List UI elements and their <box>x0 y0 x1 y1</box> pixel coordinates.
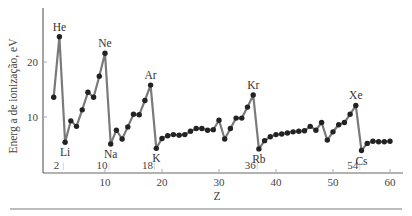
data-point <box>308 124 313 129</box>
element-label-kr: Kr <box>247 79 259 91</box>
data-point <box>239 115 244 120</box>
data-point <box>325 137 330 142</box>
data-point <box>330 129 335 134</box>
data-series <box>51 34 393 153</box>
data-point <box>159 136 164 141</box>
data-point <box>336 122 341 127</box>
data-point <box>285 130 290 135</box>
data-point <box>376 139 381 144</box>
x-tick-label: 10 <box>100 176 112 188</box>
data-point <box>194 126 199 131</box>
y-tick-label: 10 <box>27 111 39 123</box>
x-tick-label: 40 <box>271 176 283 188</box>
y-tick-label: 20 <box>27 56 39 68</box>
data-point <box>211 127 216 132</box>
data-point <box>142 98 147 103</box>
data-point <box>302 128 307 133</box>
data-point <box>296 129 301 134</box>
data-point <box>382 139 387 144</box>
data-point <box>273 132 278 137</box>
bottom-divider <box>10 208 402 210</box>
x-tick-label: 30 <box>214 176 226 188</box>
data-point <box>290 129 295 134</box>
data-point <box>62 140 67 145</box>
element-label-ar: Ar <box>145 69 157 81</box>
data-point <box>102 51 107 56</box>
ionization-energy-chart: 1020102030405060210183654 HeNeArKrXeLiNa… <box>0 0 412 216</box>
element-labels: HeNeArKrXeLiNaKRbCs <box>53 21 368 167</box>
data-point <box>85 90 90 95</box>
data-point <box>108 141 113 146</box>
group-start-marker: 2 <box>54 159 60 171</box>
element-label-rb: Rb <box>252 153 266 165</box>
data-point <box>268 134 273 139</box>
data-point <box>370 139 375 144</box>
data-point <box>171 132 176 137</box>
data-point <box>68 118 73 123</box>
element-label-li: Li <box>60 146 70 158</box>
data-point <box>97 74 102 79</box>
data-point <box>74 124 79 129</box>
data-point <box>125 124 130 129</box>
x-tick-label: 50 <box>328 176 340 188</box>
group-start-marker: 10 <box>97 159 109 171</box>
data-point <box>154 146 159 151</box>
data-point <box>91 95 96 100</box>
data-point <box>80 107 85 112</box>
element-label-xe: Xe <box>349 89 362 101</box>
data-point <box>347 112 352 117</box>
data-point <box>57 34 62 39</box>
axes: 1020102030405060210183654 <box>27 8 403 188</box>
element-label-na: Na <box>104 148 117 160</box>
data-point <box>165 133 170 138</box>
data-point <box>313 128 318 133</box>
data-point <box>251 92 256 97</box>
data-point <box>279 131 284 136</box>
data-point <box>182 132 187 137</box>
data-point <box>131 112 136 117</box>
data-point <box>262 138 267 143</box>
data-point <box>233 115 238 120</box>
data-point <box>148 82 153 87</box>
element-label-cs: Cs <box>355 155 368 167</box>
data-point <box>365 141 370 146</box>
element-label-ne: Ne <box>98 37 111 49</box>
data-point <box>319 120 324 125</box>
data-point <box>228 126 233 131</box>
data-point <box>353 103 358 108</box>
element-label-he: He <box>53 21 66 33</box>
y-axis-label: Energ a de ionização, eV <box>7 38 20 154</box>
x-axis-label: Z <box>213 190 220 202</box>
x-tick-label: 60 <box>385 176 397 188</box>
data-point <box>114 128 119 133</box>
data-point <box>205 128 210 133</box>
data-point <box>216 118 221 123</box>
element-label-k: K <box>152 152 161 164</box>
data-point <box>359 148 364 153</box>
data-point <box>222 136 227 141</box>
data-point <box>137 112 142 117</box>
data-point <box>188 129 193 134</box>
data-point <box>256 146 261 151</box>
data-point <box>176 132 181 137</box>
data-point <box>342 120 347 125</box>
data-point <box>199 126 204 131</box>
data-point <box>245 104 250 109</box>
data-point <box>51 95 56 100</box>
x-tick-label: 20 <box>157 176 169 188</box>
data-point <box>387 139 392 144</box>
data-point <box>119 136 124 141</box>
